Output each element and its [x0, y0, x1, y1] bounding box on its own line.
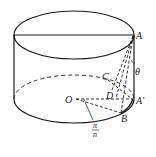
- segment-OB: [76, 99, 121, 113]
- label-theta: θ: [135, 66, 140, 77]
- segment-AD: [116, 36, 133, 98]
- angle-leader: [85, 102, 93, 120]
- cylinder-diagram: A θ C D A′ O B π n: [0, 0, 156, 157]
- label-O: O: [65, 94, 72, 105]
- angle-denominator: n: [93, 130, 97, 139]
- angle-numerator: π: [93, 121, 98, 130]
- label-A-prime: A′: [135, 95, 145, 106]
- label-A: A: [135, 30, 143, 41]
- segment-AB: [121, 36, 133, 113]
- label-B: B: [121, 113, 127, 124]
- label-C: C: [102, 71, 109, 82]
- label-D: D: [105, 90, 114, 101]
